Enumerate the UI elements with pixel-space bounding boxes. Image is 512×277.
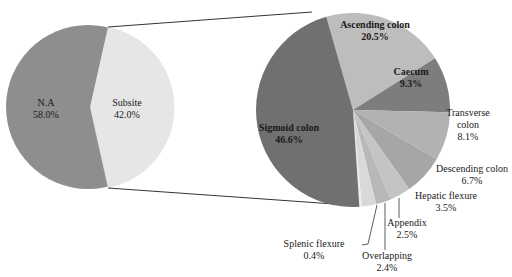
label-subsite-name: Subsite [112,97,142,108]
label-splenic-pct: 0.4% [304,250,325,261]
label-descending-name: Descending colon [436,163,508,174]
label-overlapping-name: Overlapping [362,250,412,261]
label-transverse-name1: Transverse [446,107,490,118]
label-ascending-name: Ascending colon [340,19,410,30]
left-pie [6,25,174,189]
label-sigmoid-name: Sigmoid colon [259,122,320,133]
right-pie [256,13,450,207]
figure-caption-blurred [100,265,420,275]
label-hepatic-name: Hepatic flexure [415,190,477,201]
label-na-name: N.A [38,97,56,108]
label-caecum-name: Caecum [394,66,430,77]
pie-of-pie-chart: N.A 58.0% Subsite 42.0% Ascending colon … [0,0,512,277]
label-splenic-name: Splenic flexure [284,238,345,249]
label-hepatic-pct: 3.5% [436,202,457,213]
label-appendix-name: Appendix [387,217,426,228]
leader-splenic [362,205,377,245]
label-ascending-pct: 20.5% [361,31,389,42]
label-descending-pct: 6.7% [462,175,483,186]
label-subsite-pct: 42.0% [114,109,140,120]
label-na-pct: 58.0% [33,109,59,120]
label-transverse-pct: 8.1% [458,131,479,142]
label-appendix-pct: 2.5% [397,229,418,240]
label-transverse-name2: colon [457,119,479,130]
label-sigmoid-pct: 46.6% [275,134,303,145]
connector-line-top [108,12,312,27]
label-caecum-pct: 9.3% [400,78,423,89]
